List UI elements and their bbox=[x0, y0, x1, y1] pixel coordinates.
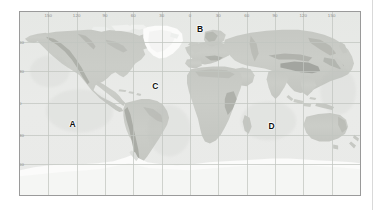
grid-line-lat bbox=[20, 135, 360, 136]
lon-tick-label: 150 bbox=[328, 13, 336, 18]
lon-tick-label: 90 bbox=[272, 13, 277, 18]
region-label-b: B bbox=[197, 25, 203, 34]
lon-tick-label: 120 bbox=[299, 13, 307, 18]
lon-tick-label: 0 bbox=[189, 13, 192, 18]
region-label-d: D bbox=[269, 122, 275, 131]
lat-tick-label: 0 bbox=[19, 100, 22, 105]
lon-tick-label: 30 bbox=[216, 13, 221, 18]
grid-line-lat bbox=[20, 42, 360, 43]
lat-tick-label: 30 bbox=[19, 69, 24, 74]
world-map-figure: 150 120 90 60 30 0 30 60 90 120 150 60 3… bbox=[19, 11, 361, 196]
grid-line-lat bbox=[20, 71, 360, 72]
grid-line-lat bbox=[20, 103, 360, 104]
lat-tick-label: 60 bbox=[19, 162, 24, 167]
page-divider-rule bbox=[372, 0, 373, 210]
lon-tick-label: 30 bbox=[159, 13, 164, 18]
grid-line-lat bbox=[20, 164, 360, 165]
region-label-c: C bbox=[152, 82, 158, 91]
lon-tick-label: 90 bbox=[102, 13, 107, 18]
lon-tick-label: 60 bbox=[244, 13, 249, 18]
lat-tick-label: 60 bbox=[19, 39, 24, 44]
lon-tick-label: 150 bbox=[44, 13, 52, 18]
lon-tick-label: 60 bbox=[131, 13, 136, 18]
region-label-a: A bbox=[70, 119, 76, 128]
lat-tick-label: 30 bbox=[19, 132, 24, 137]
lon-tick-label: 120 bbox=[73, 13, 81, 18]
page-canvas: 150 120 90 60 30 0 30 60 90 120 150 60 3… bbox=[0, 0, 389, 210]
